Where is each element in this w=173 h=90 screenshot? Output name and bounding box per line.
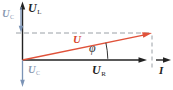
u-r-symbol: U [92,63,101,77]
u-l-symbol: U [28,1,37,15]
u-l-label: UL [28,2,41,16]
phi-symbol: φ [89,41,96,55]
phase-angle-label: φ [89,42,96,54]
phasor-diagram-canvas [0,0,173,90]
u-r-axis-arrowhead-icon [139,57,148,63]
u-phasor-line [23,35,144,60]
phase-angle-arc [106,43,108,59]
u-phasor-label: U [73,34,81,45]
u-r-label: UR [92,64,106,78]
u-c-bottom-label: UC [28,65,40,76]
u-c-bottom-symbol: U [28,64,36,75]
u-c-bottom-subscript: C [36,70,40,76]
u-l-subscript: L [37,8,41,16]
current-arrowhead-icon [163,57,171,62]
u-c-top-label: UC [2,9,14,20]
u-c-top-symbol: U [2,8,10,19]
u-phasor-symbol: U [73,33,81,45]
u-phasor-arrowhead-icon [142,32,152,38]
phasor-diagram: UL UC UC U φ UR I [0,0,173,90]
current-symbol: I [159,64,163,76]
u-c-top-subscript: C [10,14,14,20]
current-label: I [159,65,163,76]
u-c-bottom-arrowhead-icon [20,80,25,87]
u-r-subscript: R [101,70,106,78]
